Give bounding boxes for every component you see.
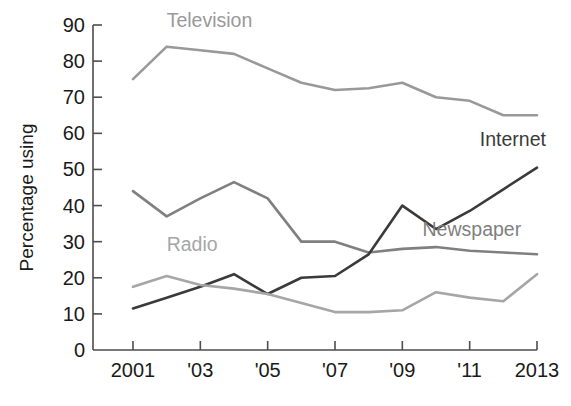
y-axis-tick-label: 10 bbox=[63, 303, 85, 325]
series-lines bbox=[133, 47, 537, 312]
y-axis-title: Percentage using bbox=[16, 124, 37, 272]
y-axis-tick-label: 60 bbox=[63, 122, 85, 144]
x-axis-tick-label: 2001 bbox=[111, 359, 156, 381]
y-axis-tick-label: 70 bbox=[63, 86, 85, 108]
series-label-radio: Radio bbox=[167, 233, 218, 255]
series-line-radio bbox=[133, 274, 537, 312]
series-labels: TelevisionNewspaperInternetRadio bbox=[167, 9, 547, 255]
x-axis-tick-label: '09 bbox=[389, 359, 415, 381]
x-axis-tick-label: '03 bbox=[187, 359, 213, 381]
y-axis-tick-label: 0 bbox=[74, 339, 85, 361]
x-axis-tick-label: 2013 bbox=[515, 359, 560, 381]
x-axis-tick-label: '11 bbox=[457, 359, 482, 381]
x-axis-tick-label: '05 bbox=[255, 359, 281, 381]
y-axis: 0102030405060708090 bbox=[63, 14, 102, 361]
y-axis-tick-label: 50 bbox=[63, 158, 85, 180]
chart-canvas: 0102030405060708090 2001'03'05'07'09'112… bbox=[0, 0, 571, 406]
y-axis-tick-label: 90 bbox=[63, 14, 85, 36]
series-label-television: Television bbox=[167, 9, 253, 31]
y-axis-title-text: Percentage using bbox=[16, 124, 37, 272]
y-axis-tick-label: 20 bbox=[63, 267, 85, 289]
series-line-television bbox=[133, 47, 537, 116]
y-axis-tick-label: 80 bbox=[63, 50, 85, 72]
line-chart: 0102030405060708090 2001'03'05'07'09'112… bbox=[0, 0, 571, 406]
x-axis: 2001'03'05'07'09'112013 bbox=[93, 341, 559, 381]
series-label-newspaper: Newspaper bbox=[423, 218, 522, 240]
y-axis-tick-label: 30 bbox=[63, 231, 85, 253]
y-axis-tick-label: 40 bbox=[63, 195, 85, 217]
x-axis-tick-label: '07 bbox=[322, 359, 348, 381]
series-label-internet: Internet bbox=[480, 128, 547, 150]
